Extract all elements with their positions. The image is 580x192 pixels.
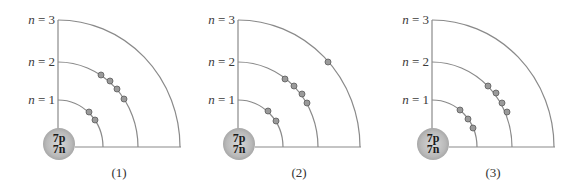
electron	[121, 96, 127, 102]
electron	[504, 109, 510, 115]
shell-n3	[432, 20, 554, 147]
shell-n3	[58, 20, 180, 147]
electron	[98, 72, 104, 78]
level-label-n1: n = 1	[5, 93, 55, 107]
electron	[325, 59, 331, 65]
caption: (2)	[279, 165, 319, 181]
electron	[86, 109, 92, 115]
neutron-count: 7n	[53, 144, 66, 155]
nucleus: 7p 7n	[223, 128, 255, 160]
electron	[107, 78, 113, 84]
caption: (1)	[99, 165, 139, 181]
atom-diagram-3: n = 3 n = 2 n = 1 7p 7n (3)	[374, 0, 568, 192]
level-label-n3: n = 3	[185, 13, 235, 27]
electron	[304, 100, 310, 106]
electron	[92, 117, 98, 123]
atom-diagram-2: n = 3 n = 2 n = 1 7p 7n (2)	[180, 0, 374, 192]
electron	[465, 116, 471, 122]
electron	[457, 107, 463, 113]
shell-n3	[238, 20, 360, 147]
level-label-n2: n = 2	[185, 55, 235, 69]
level-label-n2: n = 2	[5, 55, 55, 69]
neutron-count: 7n	[427, 144, 440, 155]
electron	[493, 90, 499, 96]
level-label-n1: n = 1	[185, 93, 235, 107]
electron	[470, 125, 476, 131]
electron	[273, 118, 279, 124]
electron	[485, 83, 491, 89]
electron	[499, 100, 505, 106]
level-label-n2: n = 2	[379, 55, 429, 69]
atom-diagram-1: n = 3 n = 2 n = 1 7p 7n (1)	[0, 0, 194, 192]
nucleus: 7p 7n	[417, 128, 449, 160]
electron	[299, 91, 305, 97]
level-label-n3: n = 3	[379, 13, 429, 27]
electron	[282, 76, 288, 82]
neutron-count: 7n	[233, 144, 246, 155]
electron	[114, 86, 120, 92]
caption: (3)	[473, 165, 513, 181]
nucleus: 7p 7n	[43, 128, 75, 160]
level-label-n3: n = 3	[5, 13, 55, 27]
electron	[265, 108, 271, 114]
electron	[291, 83, 297, 89]
level-label-n1: n = 1	[379, 93, 429, 107]
